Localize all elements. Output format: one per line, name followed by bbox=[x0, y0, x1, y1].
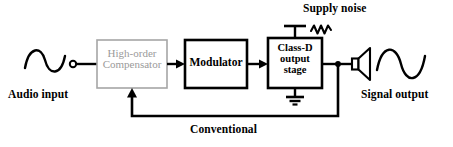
arrowhead-into-modulator bbox=[176, 60, 185, 69]
block-label-compensator-line2: Compensator bbox=[98, 59, 166, 70]
label-signal-output: Signal output bbox=[361, 88, 428, 100]
label-supply-noise: Supply noise bbox=[303, 2, 367, 14]
arrowhead-feedback-into-compensator bbox=[127, 88, 137, 98]
sine-wave-output-icon bbox=[377, 50, 425, 78]
speaker-icon bbox=[359, 48, 371, 80]
block-label-class-d-line3: stage bbox=[269, 65, 321, 76]
sine-wave-input-icon bbox=[25, 50, 65, 71]
block-label-compensator: High-order Compensator bbox=[98, 48, 166, 71]
block-label-class-d: Class-D output stage bbox=[269, 43, 321, 76]
label-conventional-feedback: Conventional bbox=[190, 123, 257, 135]
block-label-modulator-line1: Modulator bbox=[186, 57, 246, 69]
block-label-modulator: Modulator bbox=[186, 57, 246, 69]
block-diagram-figure: High-order Compensator Modulator Class-D… bbox=[0, 0, 453, 147]
arrowhead-into-classd bbox=[259, 60, 268, 69]
label-audio-input: Audio input bbox=[8, 88, 68, 100]
input-terminal-icon bbox=[70, 61, 76, 67]
noise-zigzag-icon bbox=[311, 26, 331, 34]
